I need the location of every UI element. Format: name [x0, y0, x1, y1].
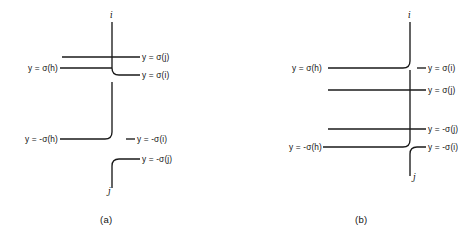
label-y-neg-sigma-h: y = -σ(h) — [10, 135, 58, 143]
node-label-i: i — [408, 10, 411, 20]
wire-to-neg-sigma-h — [60, 132, 112, 139]
label-y-neg-sigma-i: y = -σ(i) — [428, 143, 458, 151]
diagram-panel-a: i j y = σ(j) y = σ(h) y = σ(i) y = -σ(h)… — [0, 0, 210, 244]
diagram-panel-b: i j y = σ(h) y = σ(i) y = σ(j) y = -σ(j)… — [210, 0, 421, 244]
label-y-sigma-h: y = σ(h) — [16, 64, 58, 72]
wire-j-elbow — [112, 159, 140, 188]
panel-a-caption: (a) — [100, 214, 113, 225]
panel-b-wires — [210, 0, 421, 244]
label-y-sigma-j: y = σ(j) — [428, 86, 455, 94]
label-y-neg-sigma-j: y = -σ(j) — [428, 125, 458, 133]
panel-a-wires — [0, 0, 210, 244]
panel-b-caption: (b) — [355, 214, 368, 225]
node-label-j: j — [108, 186, 111, 196]
node-label-i: i — [110, 10, 113, 20]
label-y-sigma-i: y = σ(i) — [428, 64, 455, 72]
label-y-sigma-i: y = σ(i) — [142, 71, 169, 79]
wire-to-neg-sigma-h — [323, 140, 410, 147]
label-y-sigma-h: y = σ(h) — [274, 64, 322, 72]
label-y-neg-sigma-i: y = -σ(i) — [137, 135, 167, 143]
label-y-neg-sigma-h: y = -σ(h) — [268, 143, 322, 151]
label-y-neg-sigma-j: y = -σ(j) — [142, 155, 172, 163]
node-label-j: j — [413, 172, 416, 182]
wire-i-trunk — [328, 22, 410, 68]
label-y-sigma-j: y = σ(j) — [142, 53, 169, 61]
wire-i-to-sigma-i — [112, 68, 140, 75]
